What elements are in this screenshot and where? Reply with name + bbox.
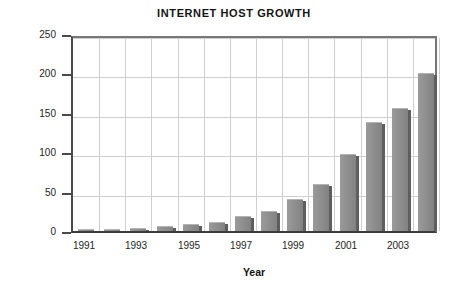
bar-top-highlight xyxy=(104,229,120,230)
bar xyxy=(287,199,303,231)
bar-side-shadow xyxy=(225,224,228,231)
x-axis-tick-label: 2003 xyxy=(376,240,420,251)
bar xyxy=(340,154,356,231)
y-axis-tick xyxy=(62,35,71,37)
bar xyxy=(157,226,173,231)
y-axis-tick-label: 200 xyxy=(16,68,56,79)
bar-top-highlight xyxy=(418,73,434,74)
y-axis-tick-label: 250 xyxy=(16,29,56,40)
bar-side-shadow xyxy=(173,228,176,231)
bar-side-shadow xyxy=(356,156,359,231)
bar-top-highlight xyxy=(392,108,408,109)
bar-top-highlight xyxy=(78,229,94,230)
bar-series xyxy=(73,38,435,231)
bar xyxy=(130,228,146,231)
bar-side-shadow xyxy=(199,226,202,231)
bar xyxy=(261,211,277,231)
x-axis-tick-label: 1993 xyxy=(114,240,158,251)
bar-top-highlight xyxy=(313,184,329,185)
bar xyxy=(78,229,94,231)
chart-figure: INTERNET HOST GROWTH Growth (in millions… xyxy=(0,0,468,293)
bar xyxy=(366,122,382,231)
x-axis-tick-label: 1991 xyxy=(62,240,106,251)
bar-top-highlight xyxy=(209,222,225,223)
bar xyxy=(392,108,408,231)
y-axis-tick xyxy=(62,193,71,195)
bar-top-highlight xyxy=(157,226,173,227)
x-axis-title: Year xyxy=(71,266,437,278)
bar xyxy=(209,222,225,231)
y-axis-tick-label: 150 xyxy=(16,108,56,119)
bar-top-highlight xyxy=(366,122,382,123)
bar-side-shadow xyxy=(146,230,149,231)
bar-top-highlight xyxy=(287,199,303,200)
bar-side-shadow xyxy=(408,110,411,231)
bar-top-highlight xyxy=(340,154,356,155)
x-axis-tick-label: 1999 xyxy=(271,240,315,251)
bar xyxy=(183,224,199,231)
gridline-vertical xyxy=(439,38,440,231)
bar-top-highlight xyxy=(130,228,146,229)
bar xyxy=(418,73,434,231)
y-axis-tick xyxy=(62,232,71,234)
bar xyxy=(313,184,329,231)
plot-area xyxy=(71,36,437,233)
y-axis-tick-label: 50 xyxy=(16,187,56,198)
x-axis-tick-label: 1997 xyxy=(219,240,263,251)
bar-top-highlight xyxy=(183,224,199,225)
chart-title: INTERNET HOST GROWTH xyxy=(0,7,468,19)
y-axis-tick-label: 0 xyxy=(16,226,56,237)
bar-side-shadow xyxy=(303,201,306,231)
bar-side-shadow xyxy=(251,218,254,231)
y-axis-tick xyxy=(62,114,71,116)
bar-side-shadow xyxy=(382,124,385,231)
bar-top-highlight xyxy=(235,216,251,217)
x-axis-tick-label: 2001 xyxy=(324,240,368,251)
y-axis-tick-label: 100 xyxy=(16,147,56,158)
bar xyxy=(235,216,251,231)
y-axis-tick xyxy=(62,153,71,155)
bar-top-highlight xyxy=(261,211,277,212)
bar-side-shadow xyxy=(434,75,437,231)
y-axis-tick xyxy=(62,74,71,76)
bar-side-shadow xyxy=(329,186,332,231)
bar xyxy=(104,229,120,231)
x-axis-tick-label: 1995 xyxy=(167,240,211,251)
bar-side-shadow xyxy=(277,213,280,231)
